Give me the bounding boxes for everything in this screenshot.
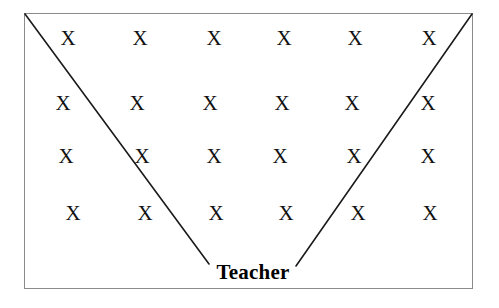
- classroom-diagram: XXXXXXXXXXXXXXXXXXXXXXXX Teacher: [0, 0, 499, 308]
- student-seat-mark: X: [134, 146, 149, 167]
- student-seat-mark: X: [274, 93, 289, 114]
- student-seat-mark: X: [422, 203, 437, 224]
- classroom-boundary: [24, 13, 473, 289]
- student-seat-mark: X: [206, 146, 221, 167]
- student-seat-mark: X: [276, 28, 291, 49]
- student-seat-mark: X: [55, 93, 70, 114]
- student-seat-mark: X: [60, 28, 75, 49]
- student-seat-mark: X: [65, 203, 80, 224]
- student-seat-mark: X: [347, 28, 362, 49]
- student-seat-mark: X: [346, 146, 361, 167]
- student-seat-mark: X: [272, 146, 287, 167]
- student-seat-mark: X: [420, 93, 435, 114]
- student-seat-mark: X: [350, 203, 365, 224]
- student-seat-mark: X: [344, 93, 359, 114]
- teacher-label: Teacher: [217, 262, 290, 283]
- student-seat-mark: X: [58, 146, 73, 167]
- student-seat-mark: X: [278, 203, 293, 224]
- student-seat-mark: X: [132, 28, 147, 49]
- student-seat-mark: X: [206, 28, 221, 49]
- student-seat-mark: X: [208, 203, 223, 224]
- student-seat-mark: X: [420, 146, 435, 167]
- student-seat-mark: X: [129, 93, 144, 114]
- student-seat-mark: X: [421, 28, 436, 49]
- student-seat-mark: X: [137, 203, 152, 224]
- student-seat-mark: X: [202, 93, 217, 114]
